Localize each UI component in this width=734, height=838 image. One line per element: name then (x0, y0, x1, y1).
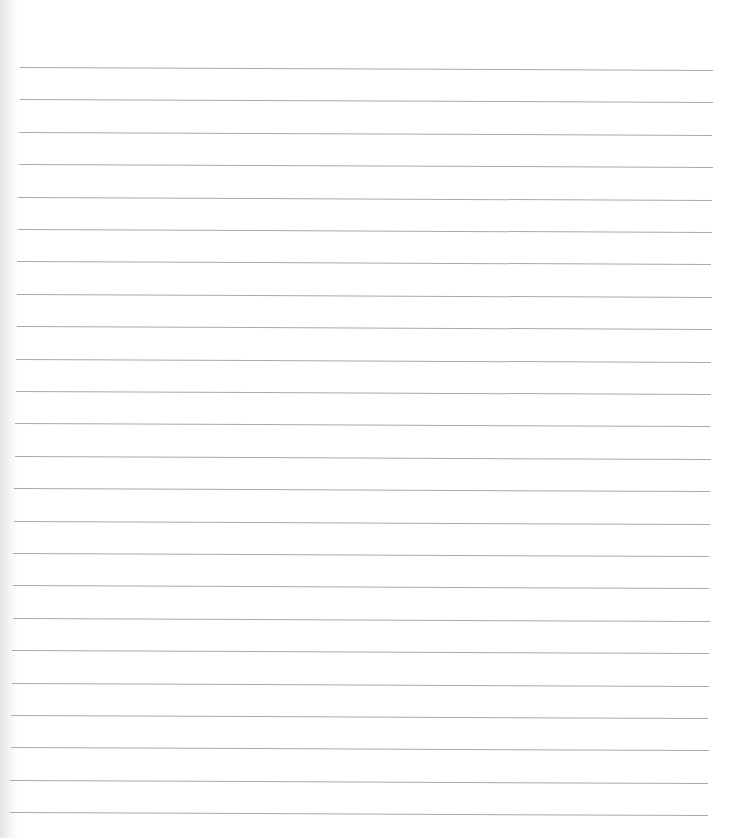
ruled-line (13, 585, 709, 589)
ruled-line (12, 683, 709, 687)
ruled-line (18, 197, 712, 201)
ruled-line (15, 423, 710, 427)
ruled-line (11, 715, 708, 719)
ruled-line (17, 261, 711, 265)
ruled-line (11, 747, 709, 751)
ruled-line (14, 488, 710, 492)
ruled-line (18, 229, 712, 233)
ruled-line (14, 521, 710, 525)
ruled-line (17, 326, 712, 330)
ruled-line (16, 391, 711, 395)
ruled-line (20, 99, 713, 103)
ruled-line (10, 812, 708, 816)
ruled-lines (0, 0, 734, 838)
ruled-line (19, 164, 713, 168)
ruled-line (20, 67, 713, 71)
ruled-line (19, 132, 712, 136)
ruled-line (15, 456, 711, 460)
ruled-line (13, 553, 709, 557)
ruled-line (12, 650, 709, 654)
ruled-line (17, 294, 712, 298)
ruled-line (16, 359, 711, 363)
ruled-line (13, 618, 710, 622)
ruled-line (10, 780, 708, 784)
